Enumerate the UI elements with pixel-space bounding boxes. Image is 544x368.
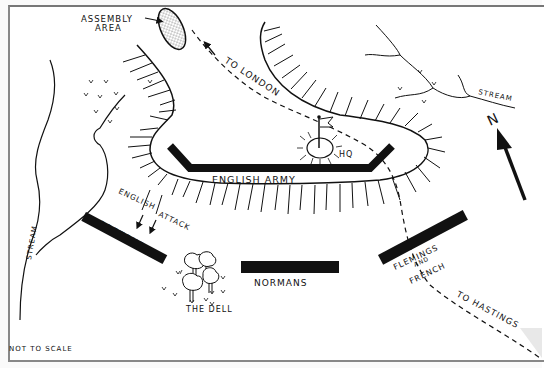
- normans-label: NORMANS: [254, 278, 307, 288]
- scale-note-label: NOT TO SCALE: [9, 345, 73, 353]
- english-attack-label-2: ATTACK: [157, 210, 192, 233]
- english-army-label: ENGLISH ARMY: [212, 174, 296, 185]
- stream-northeast-branch3: [458, 75, 470, 96]
- assembly-area-icon: [145, 4, 191, 53]
- english-attack-label: ENGLISH: [117, 187, 157, 212]
- attack-arrow-icon: [138, 215, 143, 226]
- attack-arrow-icon: [151, 220, 156, 231]
- north-arrow-icon: [497, 128, 525, 200]
- the-dell-label: THE DELL: [185, 305, 233, 314]
- assembly-area-label-2: AREA: [95, 23, 122, 33]
- to-hastings-label: TO HASTINGS: [454, 288, 521, 330]
- north-label: N: [485, 109, 502, 128]
- stream-northeast-label: STREAM: [478, 88, 514, 103]
- english-army-position: [170, 146, 392, 168]
- normans-position: [241, 261, 339, 273]
- hq-label: HQ: [339, 150, 353, 159]
- stream-west-label: STREAM: [25, 225, 39, 261]
- to-london-label: TO LONDON: [222, 55, 282, 99]
- stream-west: [20, 60, 55, 320]
- the-dell-trees-icon: [183, 252, 219, 302]
- stream-northeast-branch1: [365, 55, 400, 56]
- hq-flag-icon: [297, 115, 342, 165]
